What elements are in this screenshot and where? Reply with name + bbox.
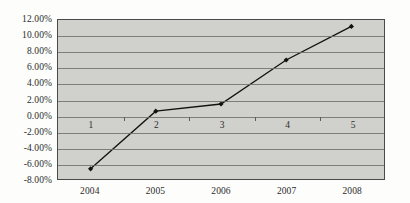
- x-tick-mark: [320, 117, 321, 121]
- gridline: [58, 52, 384, 53]
- series-point-label: 4: [285, 120, 290, 130]
- data-line: [91, 26, 352, 168]
- gridline: [58, 133, 384, 134]
- line-chart: 12.00%10.00%8.00%6.00%4.00%2.00%0.00%-2.…: [0, 0, 410, 203]
- y-tick-label: 8.00%: [27, 46, 52, 56]
- y-tick-label: 12.00%: [22, 14, 52, 24]
- x-tick-mark: [124, 117, 125, 121]
- x-tick-label: 2007: [277, 186, 296, 196]
- series-point-label: 1: [88, 120, 93, 130]
- plot-area: 12345: [57, 19, 385, 180]
- gridline: [58, 84, 384, 85]
- gridline: [58, 68, 384, 69]
- series-point-label: 3: [220, 120, 225, 130]
- y-tick-label: 6.00%: [27, 62, 52, 72]
- series-point-label: 2: [154, 120, 159, 130]
- y-tick-label: -6.00%: [24, 159, 52, 169]
- y-axis: 12.00%10.00%8.00%6.00%4.00%2.00%0.00%-2.…: [0, 0, 56, 203]
- data-point-marker: [349, 24, 354, 29]
- x-tick-label: 2008: [342, 186, 361, 196]
- y-tick-label: -2.00%: [24, 127, 52, 137]
- y-tick-label: 10.00%: [22, 30, 52, 40]
- gridline: [58, 36, 384, 37]
- x-tick-mark: [255, 117, 256, 121]
- gridline: [58, 149, 384, 150]
- series-point-label: 5: [351, 120, 356, 130]
- x-tick-mark: [189, 117, 190, 121]
- x-tick-label: 2006: [211, 186, 230, 196]
- x-tick-label: 2005: [146, 186, 165, 196]
- y-tick-label: 2.00%: [27, 95, 52, 105]
- y-tick-label: -4.00%: [24, 143, 52, 153]
- x-axis: 20042005200620072008: [57, 181, 385, 203]
- y-tick-label: -8.00%: [24, 175, 52, 185]
- plot-inner: 12345: [58, 20, 384, 179]
- gridline: [58, 165, 384, 166]
- x-tick-label: 2004: [80, 186, 99, 196]
- gridline: [58, 117, 384, 118]
- gridline: [58, 101, 384, 102]
- y-tick-label: 0.00%: [27, 111, 52, 121]
- y-tick-label: 4.00%: [27, 78, 52, 88]
